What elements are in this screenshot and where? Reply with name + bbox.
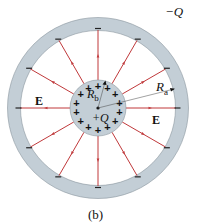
svg-text:+: + xyxy=(112,115,118,127)
svg-text:+: + xyxy=(78,88,84,100)
svg-text:+: + xyxy=(95,124,101,136)
inner-charge-label: +Q xyxy=(92,112,109,124)
inner-radius-label: Rb xyxy=(87,88,99,103)
field-label-right: E xyxy=(152,114,160,126)
outer-radius-label: Ra xyxy=(156,80,168,97)
figure-caption: (b) xyxy=(88,208,103,221)
outer-charge-label: −Q xyxy=(165,5,183,18)
svg-text:+: + xyxy=(85,121,91,133)
field-label-left: E xyxy=(35,95,43,107)
